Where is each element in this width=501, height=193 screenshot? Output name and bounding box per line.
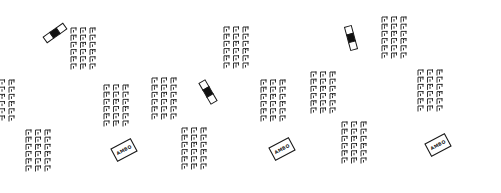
- chair-icon: [192, 128, 197, 133]
- chair-icon: [261, 102, 266, 107]
- chair-icon: [428, 92, 433, 97]
- chair-icon: [418, 106, 423, 111]
- chair-icon: [162, 107, 167, 112]
- chair-icon: [330, 108, 335, 113]
- chair-icon: [71, 50, 76, 55]
- chair-icon: [71, 64, 76, 69]
- chair-block-left-lower: [342, 122, 366, 163]
- chair-icon: [243, 63, 248, 68]
- chair-icon: [45, 137, 50, 142]
- chair-block-right-upper: [71, 28, 95, 69]
- chair-block-right-upper: [382, 17, 406, 58]
- chair-icon: [81, 28, 86, 33]
- chair-icon: [224, 49, 229, 54]
- chair-icon: [171, 114, 176, 119]
- chair-icon: [392, 17, 397, 22]
- chair-icon: [26, 152, 31, 157]
- chair-icon: [224, 41, 229, 46]
- chair-icon: [361, 158, 366, 163]
- chair-icon: [152, 78, 157, 83]
- chair-icon: [182, 128, 187, 133]
- chair-icon: [123, 114, 128, 119]
- chair-block-left-upper: [0, 80, 14, 121]
- chair-icon: [261, 116, 266, 121]
- chair-icon: [9, 94, 14, 99]
- chair-block-right-lower: [418, 70, 442, 111]
- chair-icon: [71, 42, 76, 47]
- chair-icon: [321, 72, 326, 77]
- altar-table: [345, 26, 358, 51]
- chair-icon: [437, 77, 442, 82]
- ambo: AMBO: [111, 139, 137, 162]
- chair-icon: [152, 114, 157, 119]
- chair-icon: [0, 109, 5, 114]
- chair-block-right-upper: [224, 27, 248, 68]
- floor-plan-2: AMBO: [152, 27, 295, 169]
- chair-icon: [36, 152, 41, 157]
- chair-icon: [26, 144, 31, 149]
- chair-icon: [392, 39, 397, 44]
- chair-icon: [342, 136, 347, 141]
- chair-icon: [201, 164, 206, 169]
- chair-block-left-upper: [311, 72, 335, 113]
- chair-icon: [90, 57, 95, 62]
- chair-icon: [201, 157, 206, 162]
- chair-icon: [401, 53, 406, 58]
- chair-icon: [280, 116, 285, 121]
- chair-block-left-lower: [26, 130, 50, 171]
- chair-icon: [9, 116, 14, 121]
- ambo: AMBO: [269, 138, 295, 161]
- chair-icon: [234, 27, 239, 32]
- chair-icon: [342, 144, 347, 149]
- chair-icon: [45, 166, 50, 171]
- chair-icon: [192, 150, 197, 155]
- chair-icon: [36, 130, 41, 135]
- chair-icon: [401, 31, 406, 36]
- chair-icon: [311, 72, 316, 77]
- chair-icon: [224, 63, 229, 68]
- chair-icon: [311, 94, 316, 99]
- chair-icon: [342, 122, 347, 127]
- chair-block-left-upper: [152, 78, 176, 119]
- chair-icon: [201, 142, 206, 147]
- chair-icon: [437, 99, 442, 104]
- chair-icon: [280, 109, 285, 114]
- chair-icon: [182, 164, 187, 169]
- chair-icon: [428, 99, 433, 104]
- seating-diagram: AMBOAMBOAMBO: [0, 0, 501, 193]
- chair-icon: [321, 101, 326, 106]
- chair-icon: [36, 159, 41, 164]
- chair-icon: [330, 101, 335, 106]
- chair-icon: [243, 34, 248, 39]
- chair-icon: [280, 87, 285, 92]
- chair-icon: [311, 86, 316, 91]
- chair-icon: [192, 135, 197, 140]
- altar-table: [199, 80, 217, 104]
- chair-icon: [401, 46, 406, 51]
- chair-icon: [114, 107, 119, 112]
- chair-icon: [224, 27, 229, 32]
- chair-icon: [104, 121, 109, 126]
- chair-icon: [104, 85, 109, 90]
- chair-icon: [361, 136, 366, 141]
- chair-icon: [428, 70, 433, 75]
- chair-block-right-lower: [104, 85, 128, 126]
- chair-icon: [90, 42, 95, 47]
- chair-icon: [123, 99, 128, 104]
- chair-icon: [330, 86, 335, 91]
- ambo: AMBO: [425, 134, 451, 157]
- chair-icon: [171, 85, 176, 90]
- chair-icon: [9, 87, 14, 92]
- chair-icon: [352, 144, 357, 149]
- chair-icon: [0, 102, 5, 107]
- chair-icon: [81, 50, 86, 55]
- chair-icon: [0, 80, 5, 85]
- chair-icon: [26, 166, 31, 171]
- chair-icon: [192, 157, 197, 162]
- chair-icon: [71, 28, 76, 33]
- chair-icon: [271, 109, 276, 114]
- chair-icon: [104, 107, 109, 112]
- floor-plan-1: AMBO: [0, 23, 137, 171]
- chair-icon: [352, 129, 357, 134]
- chair-icon: [0, 87, 5, 92]
